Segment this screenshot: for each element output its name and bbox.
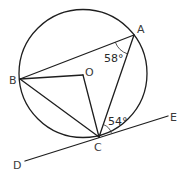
point-label-o: O [85, 66, 94, 79]
point-label-b: B [9, 74, 17, 87]
tangent-line-de [25, 116, 168, 161]
point-label-e: E [170, 111, 177, 124]
angle-label-a: 58° [104, 52, 124, 65]
point-label-d: D [13, 159, 21, 172]
point-label-c: C [94, 141, 102, 154]
point-label-a: A [137, 23, 145, 36]
angle-label-c: 54° [108, 115, 128, 128]
chord-bc [20, 79, 99, 137]
circle [19, 10, 147, 138]
circle-geometry-diagram: 58° 54° A B O C D E [0, 0, 186, 178]
